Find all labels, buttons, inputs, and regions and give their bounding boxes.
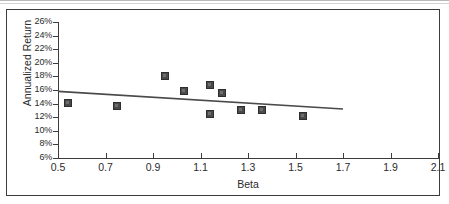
- page-top-rule-2: [0, 3, 449, 4]
- data-point-marker: [258, 106, 266, 114]
- data-point-marker: [161, 72, 169, 80]
- data-point-marker: [206, 81, 214, 89]
- y-axis-title: Annualized Return: [21, 0, 33, 138]
- data-point-marker: [218, 89, 226, 97]
- data-point-marker: [64, 99, 72, 107]
- data-point-marker: [206, 110, 214, 118]
- chart-figure: 26%24%22%20%18%16%14%12%10%8%6% 0.50.70.…: [0, 0, 449, 204]
- data-point-marker: [113, 102, 121, 110]
- data-point-marker: [180, 87, 188, 95]
- page-top-rule-1: [0, 0, 449, 1]
- trendline: [7, 10, 441, 197]
- trendline-segment: [58, 91, 343, 109]
- x-axis-title: Beta: [58, 178, 438, 190]
- chart-frame: 26%24%22%20%18%16%14%12%10%8%6% 0.50.70.…: [6, 9, 440, 196]
- plot-area: 26%24%22%20%18%16%14%12%10%8%6% 0.50.70.…: [7, 10, 441, 197]
- data-point-marker: [237, 106, 245, 114]
- data-point-marker: [299, 112, 307, 120]
